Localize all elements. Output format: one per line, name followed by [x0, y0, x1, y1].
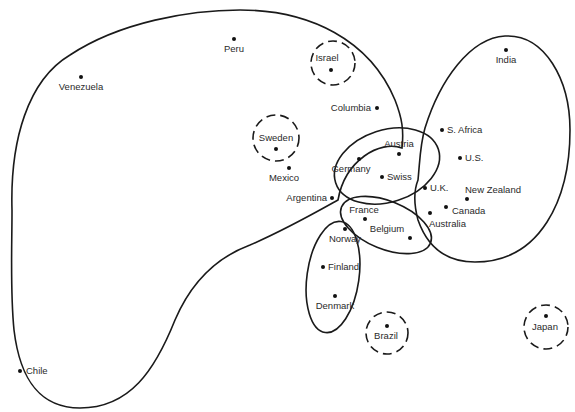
label-india: India — [496, 54, 517, 65]
diagram-svg: Peru Venezuela Israel Sweden Mexico Colu… — [0, 0, 575, 412]
label-argentina: Argentina — [286, 192, 327, 203]
country-japan: Japan — [532, 314, 558, 332]
country-norway: Norway — [329, 227, 361, 244]
label-germany: Germany — [331, 163, 370, 174]
label-mexico: Mexico — [269, 172, 299, 183]
label-sweden: Sweden — [259, 132, 293, 143]
country-belgium: Belgium — [370, 223, 412, 240]
country-sweden: Sweden — [259, 132, 293, 151]
country-canada: Canada — [444, 205, 486, 216]
country-brazil: Brazil — [374, 324, 398, 341]
country-columbia: Columbia — [331, 102, 379, 113]
country-venezuela: Venezuela — [59, 75, 104, 92]
cluster-israel-outline — [311, 41, 355, 85]
country-mexico: Mexico — [269, 166, 299, 183]
label-uk: U.K. — [430, 182, 448, 193]
label-france: France — [349, 204, 379, 215]
cluster-latin-large-outline — [12, 10, 403, 408]
label-swiss: Swiss — [387, 171, 412, 182]
label-venezuela: Venezuela — [59, 81, 104, 92]
label-chile: Chile — [26, 365, 48, 376]
country-denmark: Denmark — [316, 294, 355, 311]
country-us: U.S. — [458, 152, 483, 163]
label-denmark: Denmark — [316, 300, 355, 311]
label-brazil: Brazil — [374, 330, 398, 341]
country-argentina: Argentina — [286, 192, 334, 203]
country-swiss: Swiss — [380, 171, 412, 182]
label-s-africa: S. Africa — [447, 124, 483, 135]
label-columbia: Columbia — [331, 102, 372, 113]
label-norway: Norway — [329, 233, 361, 244]
country-new-zealand: New Zealand — [465, 184, 521, 201]
country-peru: Peru — [224, 37, 244, 54]
country-austria: Austria — [384, 138, 414, 156]
label-japan: Japan — [532, 321, 558, 332]
label-canada: Canada — [452, 205, 486, 216]
cluster-diagram: Peru Venezuela Israel Sweden Mexico Colu… — [0, 0, 575, 412]
label-us: U.S. — [465, 152, 483, 163]
label-austria: Austria — [384, 138, 414, 149]
label-israel: Israel — [315, 52, 338, 63]
country-israel: Israel — [315, 52, 338, 72]
label-peru: Peru — [224, 43, 244, 54]
label-new-zealand: New Zealand — [465, 184, 521, 195]
country-india: India — [496, 48, 517, 65]
label-finland: Finland — [328, 261, 359, 272]
country-germany: Germany — [331, 157, 370, 174]
label-belgium: Belgium — [370, 223, 404, 234]
country-s-africa: S. Africa — [440, 124, 483, 135]
country-finland: Finland — [321, 261, 359, 272]
label-australia: Australia — [429, 218, 467, 229]
country-france: France — [349, 204, 379, 221]
